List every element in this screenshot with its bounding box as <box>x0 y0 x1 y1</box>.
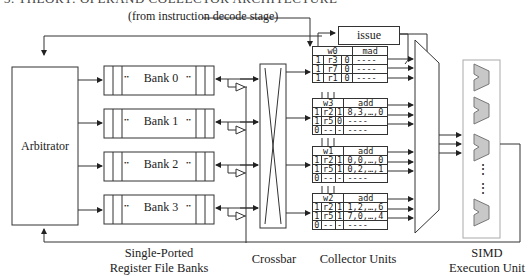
bank-label: Bank 2 <box>136 157 186 172</box>
valid-bit: 0 <box>313 126 322 135</box>
bank-label: Bank 0 <box>136 71 186 86</box>
bank-dots-right: •• <box>186 202 191 210</box>
collector-unit-w3: w3add 1r218,3,…,0 1r50---- 0------- <box>312 98 388 135</box>
bank-dots-left: •• <box>124 116 129 124</box>
bank-label: Bank 3 <box>136 200 186 215</box>
register-id: -- <box>321 174 335 183</box>
issue-label: issue <box>339 27 399 44</box>
bank-dots-right: •• <box>186 159 191 167</box>
operand-data: ---- <box>344 174 388 183</box>
caption-simd-execution-unit: SIMD Execution Unit <box>442 246 531 276</box>
operand-data: ---- <box>353 74 388 83</box>
register-id: -- <box>321 126 335 135</box>
register-id: -- <box>321 221 335 230</box>
bank-dots-right: •• <box>186 116 191 124</box>
register-id: r1 <box>324 74 342 83</box>
diagram-canvas <box>0 0 531 276</box>
collector-unit-w0: w0mad 1r30---- 1r70---- 1r10---- <box>312 46 388 83</box>
valid-bit: 0 <box>313 221 322 230</box>
ready-bit: 0 <box>342 74 353 83</box>
ready-bit: - <box>335 221 344 230</box>
collector-unit-w1: w1add 1r210,0,…,0 1r510,2,…,1 0------- <box>312 146 388 183</box>
bank-dots-right: •• <box>186 73 191 81</box>
caption-collector-units: Collector Units <box>313 252 403 267</box>
valid-bit: 0 <box>313 174 322 183</box>
caption-line: Execution Unit <box>442 261 531 276</box>
caption-register-banks: Single-Ported Register File Banks <box>100 246 218 276</box>
caption-crossbar: Crossbar <box>248 252 300 267</box>
operand-data: ---- <box>344 221 388 230</box>
simd-lane-ellipsis-icon: ⋮ <box>476 163 488 177</box>
simd-lane-ellipsis-icon: ⋮ <box>476 182 488 196</box>
collector-unit-w2: w2add 1r211,2,…,6 1r517,0,…,4 0------- <box>312 193 388 230</box>
issue-box: issue <box>338 26 400 45</box>
ready-bit: - <box>335 174 344 183</box>
valid-bit: 1 <box>313 74 324 83</box>
arbitrator-label: Arbitrator <box>12 139 78 154</box>
caption-line: SIMD <box>442 246 531 261</box>
operand-data: ---- <box>344 126 388 135</box>
bank-dots-left: •• <box>124 73 129 81</box>
ready-bit: - <box>335 126 344 135</box>
section-heading-fragment: 3. THEORY: OPERAND COLLECTOR ARCHITECTUR… <box>4 0 337 7</box>
caption-line: Register File Banks <box>100 261 218 276</box>
bank-dots-left: •• <box>124 202 129 210</box>
bank-dots-left: •• <box>124 159 129 167</box>
caption-line: Single-Ported <box>100 246 218 261</box>
bank-label: Bank 1 <box>136 114 186 129</box>
instruction-decode-label: (from instruction decode stage) <box>128 9 278 24</box>
